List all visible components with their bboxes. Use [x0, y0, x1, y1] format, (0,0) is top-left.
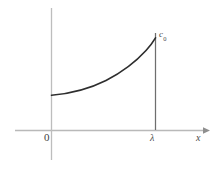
c0-annotation-label: c0 — [159, 30, 166, 41]
plot-canvas — [0, 0, 217, 174]
x-axis-arrowhead — [203, 127, 210, 133]
concentration-curve — [52, 38, 156, 96]
c0-subscript: 0 — [163, 35, 166, 42]
origin-label: 0 — [44, 132, 50, 143]
x-axis-label: x — [196, 133, 200, 143]
lambda-tick-label: λ — [150, 133, 154, 143]
chart-figure: 0 λ x c0 — [0, 0, 217, 174]
